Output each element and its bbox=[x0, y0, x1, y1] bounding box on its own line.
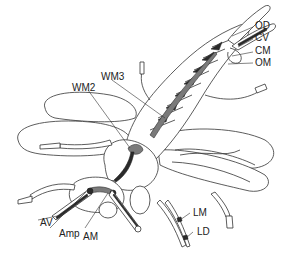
insect-anatomy-diagram: OD CV CM OM WM3 WM2 AV Amp AM LM LD bbox=[0, 0, 294, 259]
right-wings bbox=[158, 129, 274, 191]
label-wm2: WM2 bbox=[72, 83, 95, 93]
label-cm: CM bbox=[255, 46, 271, 56]
label-ld: LD bbox=[197, 227, 210, 237]
label-om: OM bbox=[255, 58, 271, 68]
label-wm3: WM3 bbox=[101, 72, 124, 82]
label-amp: Amp bbox=[59, 229, 80, 239]
label-lm: LM bbox=[193, 208, 207, 218]
label-av: AV bbox=[40, 218, 53, 228]
label-od: OD bbox=[255, 21, 270, 31]
label-cv: CV bbox=[255, 33, 269, 43]
label-am: AM bbox=[83, 232, 98, 242]
